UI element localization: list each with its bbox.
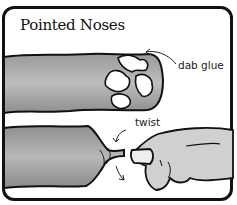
instruction-card: Pointed Noses dab glue twist bbox=[0, 0, 237, 205]
hand bbox=[131, 128, 233, 190]
page-title: Pointed Noses bbox=[20, 16, 125, 34]
dab-glue-label: dab glue bbox=[178, 59, 224, 71]
twist-label: twist bbox=[135, 116, 160, 128]
twist-arrow-bottom bbox=[116, 166, 124, 180]
tube-bottom bbox=[4, 126, 124, 188]
